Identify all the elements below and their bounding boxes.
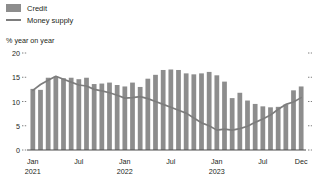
bar [299,86,304,150]
x-tick-month: Jan [119,157,131,166]
y-tick-label: 5 [16,122,20,131]
x-tick-month: Jul [166,157,175,166]
x-tick-label: Jul [166,157,175,167]
plot-area: 05101520 [0,48,312,153]
bar [191,74,196,150]
legend-item-money-supply: Money supply [6,15,73,25]
x-tick-label: Jan2021 [25,157,41,176]
bar [276,107,281,150]
x-tick-year: 2023 [209,167,225,177]
x-tick-label: Dec [295,157,308,167]
x-tick-label: Jan2023 [209,157,225,176]
bar [291,90,296,150]
x-tick-year: 2022 [117,167,133,177]
bar [253,104,258,150]
x-tick-month: Dec [295,157,308,166]
x-tick-month: Jan [27,157,39,166]
bar [122,86,127,150]
y-tick-label: 15 [12,73,20,82]
bar [76,79,81,150]
bar [222,82,227,150]
bar [145,79,150,150]
x-tick-month: Jul [258,157,267,166]
bar [84,78,89,150]
bar [99,84,104,150]
x-tick-label: Jul [258,157,267,167]
bar [130,83,135,150]
bar [230,98,235,150]
x-tick-month: Jul [74,157,83,166]
bar [168,69,173,150]
bar [161,70,166,150]
bar [30,89,35,150]
bar [53,77,58,150]
bar [92,84,97,150]
bar [153,75,158,150]
x-tick-month: Jan [211,157,223,166]
x-tick-label: Jan2022 [117,157,133,176]
legend-label-money-supply: Money supply [27,16,73,25]
bar [214,75,219,150]
x-axis-labels: Jan2021JulJan2022JulJan2023JulDec [0,155,312,187]
bar [46,78,51,150]
chart-legend: Credit Money supply [6,3,73,25]
bar [237,93,242,150]
bar [61,78,66,150]
y-tick-label: 10 [12,98,20,107]
credit-money-supply-chart: 05101520 [0,48,312,153]
bar [207,72,212,150]
x-tick-label: Jul [74,157,83,167]
bar [283,104,288,150]
legend-label-credit: Credit [27,4,47,13]
bar [69,78,74,150]
line-swatch-icon [6,16,21,24]
legend-item-credit: Credit [6,3,73,13]
y-tick-label: 20 [12,49,20,58]
bar [38,90,43,150]
y-tick-label: 0 [16,146,20,153]
x-tick-year: 2021 [25,167,41,177]
bar-swatch-icon [6,4,21,12]
bar [199,73,204,150]
y-axis-title: % year on year [6,36,54,45]
bar [260,106,265,150]
